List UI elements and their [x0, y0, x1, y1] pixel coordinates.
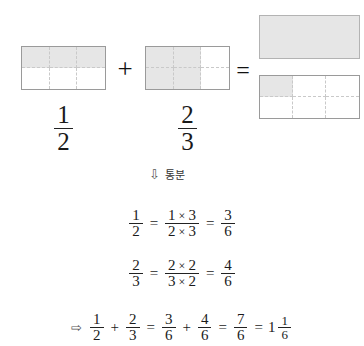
factor-a: 1: [168, 208, 176, 223]
model-cell: [174, 68, 202, 89]
fraction-numerator: 4: [198, 312, 212, 328]
fraction-denominator: 3: [129, 274, 143, 289]
result-whole-model: [259, 15, 360, 59]
model-cell: [201, 68, 229, 89]
equals-sign: =: [150, 215, 158, 232]
times-sign: ×: [179, 210, 186, 222]
final-term-3: 3 6: [162, 312, 176, 344]
fraction-numerator: 1: [278, 314, 291, 328]
fraction-denominator: 3: [126, 328, 140, 343]
equals-sign: =: [150, 265, 158, 282]
fraction-numerator: 2: [178, 102, 197, 129]
equation-product-fraction: 1 × 3 2 × 3: [165, 208, 199, 240]
equation-left-fraction: 1 2: [129, 208, 143, 240]
equation-product-fraction: 2 × 2 3 × 2: [165, 258, 199, 290]
fraction-numerator: 2: [126, 312, 140, 328]
second-addend-label: 2 3: [145, 102, 230, 154]
fraction-numerator: 7: [234, 312, 248, 328]
equals-sign: =: [206, 215, 214, 232]
fraction-denominator: 6: [234, 328, 248, 343]
model-cell: [146, 68, 174, 89]
model-cell: [77, 68, 105, 89]
fraction-denominator: 6: [278, 328, 291, 341]
equals-sign: =: [218, 319, 226, 336]
fraction-numerator: 1: [129, 208, 143, 224]
model-cell: [260, 76, 293, 97]
fraction-numerator: 4: [221, 258, 235, 274]
model-cell: [326, 97, 359, 118]
fraction-numerator: 3: [162, 312, 176, 328]
plus-sign: +: [183, 319, 191, 336]
fraction-numerator: 2: [129, 258, 143, 274]
model-cell: [293, 97, 326, 118]
equation-right-fraction: 4 6: [221, 258, 235, 290]
model-cell: [174, 47, 202, 68]
second-addend-model: [145, 46, 230, 90]
final-term-2: 2 3: [126, 312, 140, 344]
fraction-numerator: 3: [221, 208, 235, 224]
fraction-denominator: 2: [54, 129, 73, 155]
times-sign: ×: [179, 276, 186, 288]
model-cell: [201, 47, 229, 68]
model-cell: [22, 68, 50, 89]
fraction-denominator: 6: [198, 328, 212, 343]
fraction-numerator: 1: [90, 312, 104, 328]
model-cell: [50, 47, 78, 68]
mixed-whole-part: 1: [268, 319, 276, 336]
fraction-denominator: 6: [221, 224, 235, 239]
fraction-denominator: 2: [90, 328, 104, 343]
first-addend-model: [21, 46, 106, 90]
fraction-denominator: 6: [162, 328, 176, 343]
equals-sign: =: [206, 265, 214, 282]
model-cell: [260, 97, 293, 118]
model-cell: [50, 68, 78, 89]
factor-b: 2: [188, 258, 196, 273]
factor-a: 3: [168, 274, 176, 289]
first-addend-label: 1 2: [21, 102, 106, 154]
factor-a: 2: [168, 224, 176, 239]
equals-sign: =: [254, 319, 262, 336]
factor-b: 2: [188, 274, 196, 289]
final-equation-row: ⇨ 1 2 + 2 3 = 3 6 + 4 6 = 7 6 = 1 1: [0, 312, 364, 344]
model-cell: [146, 47, 174, 68]
plus-operator: +: [113, 56, 137, 83]
equation-row-1: 1 2 = 1 × 3 2 × 3 = 3 6: [0, 208, 364, 240]
fraction-numerator: 1: [54, 102, 73, 129]
times-sign: ×: [179, 260, 186, 272]
equation-right-fraction: 3 6: [221, 208, 235, 240]
model-cell: [293, 76, 326, 97]
common-denominator-annotation: ⇩ 통분: [149, 166, 185, 182]
final-term-1: 1 2: [90, 312, 104, 344]
fraction-denominator: 3: [178, 129, 197, 155]
fraction-denominator: 6: [221, 274, 235, 289]
plus-sign: +: [111, 319, 119, 336]
factor-a: 2: [168, 258, 176, 273]
fraction-addition-diagram: + = 1 2 2: [0, 0, 364, 346]
factor-b: 3: [188, 224, 196, 239]
model-cell: [77, 47, 105, 68]
final-mixed-number: 1 1 6: [268, 314, 293, 342]
final-term-4: 4 6: [198, 312, 212, 344]
equation-row-2: 2 3 = 2 × 2 3 × 2 = 4 6: [0, 258, 364, 290]
times-sign: ×: [179, 226, 186, 238]
annotation-label: 통분: [165, 166, 185, 182]
factor-b: 3: [188, 208, 196, 223]
arrow-right-icon: ⇨: [71, 321, 82, 334]
equation-left-fraction: 2 3: [129, 258, 143, 290]
model-cell: [326, 76, 359, 97]
equals-operator: =: [232, 58, 254, 82]
final-term-5: 7 6: [234, 312, 248, 344]
equals-sign: =: [147, 319, 155, 336]
fraction-denominator: 2: [129, 224, 143, 239]
arrow-down-icon: ⇩: [149, 168, 160, 181]
model-cell: [22, 47, 50, 68]
result-remainder-model: [259, 75, 360, 119]
